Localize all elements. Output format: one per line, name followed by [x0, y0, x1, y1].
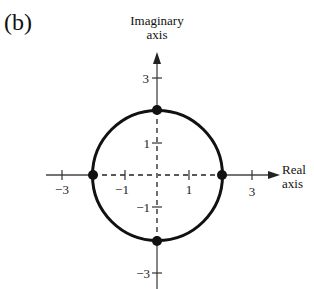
y-tick-label: 3: [143, 71, 150, 86]
complex-plane-diagram: −3 −1 1 3 3 1 −1 −3: [0, 0, 314, 289]
x-tick-label: 3: [249, 184, 256, 199]
point-left: [88, 170, 98, 180]
x-tick-label: 1: [186, 182, 193, 197]
imaginary-axis-arrow-icon: [153, 52, 161, 64]
x-tick-label: −3: [55, 182, 69, 197]
x-tick-label: −1: [115, 182, 129, 197]
y-tick-label: −1: [136, 200, 150, 215]
point-bottom: [152, 236, 162, 246]
axes: [46, 52, 280, 289]
y-tick-label: 1: [144, 136, 151, 151]
point-right: [217, 170, 227, 180]
y-tick-label: −3: [136, 266, 150, 281]
real-axis-arrow-icon: [268, 171, 280, 179]
point-top: [152, 105, 162, 115]
